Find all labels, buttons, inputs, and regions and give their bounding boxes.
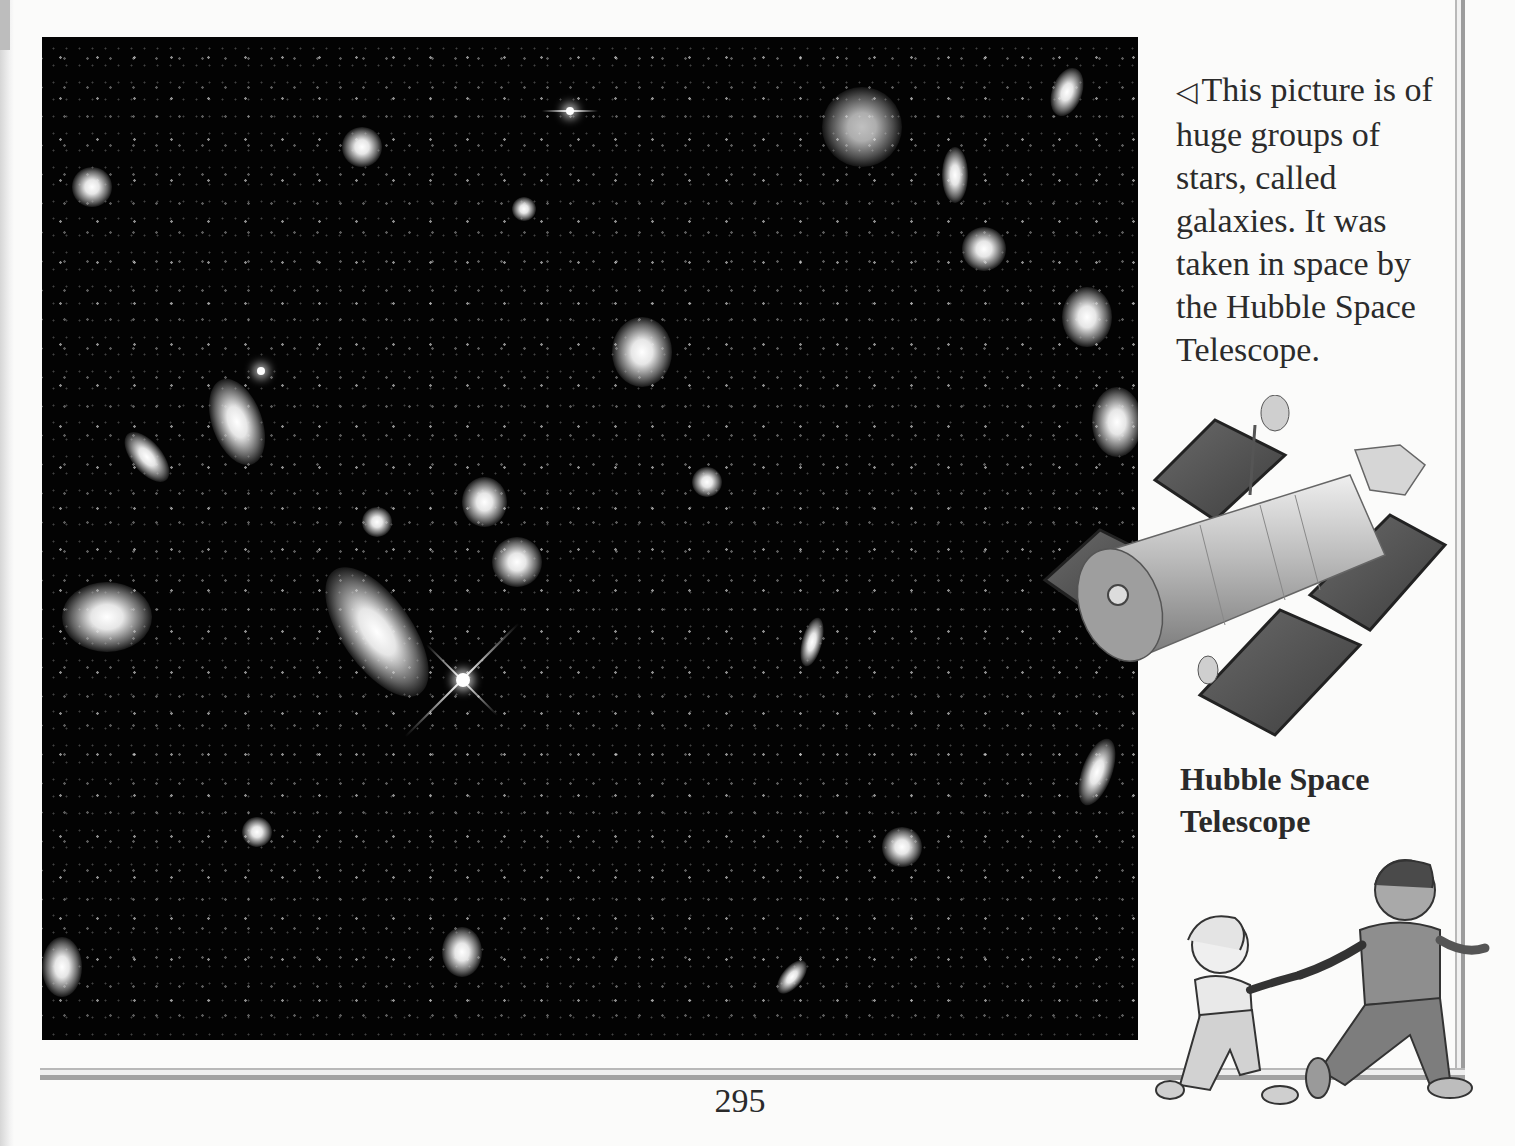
galaxy [1044, 63, 1089, 120]
galaxy [1062, 287, 1112, 347]
hubble-telescope-illustration [1040, 395, 1460, 755]
galaxy [492, 537, 542, 587]
page-number: 295 [690, 1082, 790, 1120]
galaxy [796, 615, 828, 668]
galaxy [462, 477, 507, 527]
galaxy [198, 371, 276, 473]
galaxy [771, 955, 812, 998]
star-spike [542, 110, 598, 112]
galaxy [42, 937, 82, 997]
galaxy [612, 317, 672, 387]
left-arrow-icon: ◁ [1176, 75, 1198, 108]
galaxy [442, 927, 482, 977]
galaxy [342, 127, 382, 167]
page-edge-tab [0, 0, 10, 50]
galaxy [72, 167, 112, 207]
running-children-illustration [1140, 830, 1515, 1130]
galaxy [942, 147, 968, 203]
galaxy [242, 817, 272, 847]
galaxy [962, 227, 1006, 271]
galaxy [512, 197, 536, 221]
galaxy [692, 467, 722, 497]
galaxy [305, 550, 448, 713]
galaxy [882, 827, 922, 867]
page-edge-shadow [0, 0, 14, 1146]
caption-text: This picture is of huge groups of stars,… [1176, 71, 1433, 368]
photo-caption: ◁This picture is of huge groups of stars… [1176, 68, 1456, 371]
galaxy [62, 582, 152, 652]
bright-star [257, 367, 265, 375]
galaxy [822, 87, 902, 167]
galaxy [116, 424, 178, 489]
galaxy [362, 507, 392, 537]
galaxy-photo [42, 37, 1138, 1040]
